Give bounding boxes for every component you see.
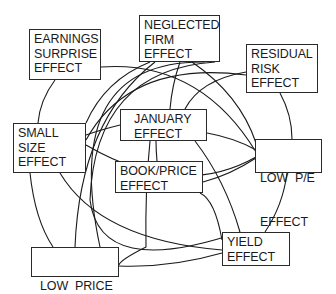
node-january-effect: JANUARY EFFECT bbox=[120, 109, 207, 141]
node-small-size-effect: SMALL SIZE EFFECT bbox=[13, 123, 86, 173]
node-neglected-firm-effect: NEGLECTED FIRM EFFECT bbox=[139, 15, 220, 62]
link-bookprice-yield bbox=[200, 193, 222, 240]
link-earnings-small bbox=[38, 80, 55, 123]
link-january-lowprice bbox=[119, 141, 150, 265]
node-yield-effect: YIELD EFFECT bbox=[222, 232, 290, 266]
link-small-lowprice bbox=[30, 173, 53, 247]
node-earnings-surprise-effect: EARNINGS SURPRISE EFFECT bbox=[29, 29, 101, 80]
node-residual-risk-effect: RESIDUAL RISK EFFECT bbox=[246, 44, 318, 93]
effects-diagram: EARNINGS SURPRISE EFFECT NEGLECTED FIRM … bbox=[0, 0, 336, 294]
node-low-pe-effect: LOW P/E EFFECT bbox=[255, 139, 322, 173]
link-neglected-lowprice bbox=[75, 62, 155, 247]
link-residual-lowpe bbox=[280, 93, 292, 139]
node-book-price-effect: BOOK/PRICE EFFECT bbox=[115, 161, 203, 193]
link-bookprice-january bbox=[156, 141, 157, 161]
node-low-price-effect: LOW PRICE EFFECT bbox=[31, 247, 119, 277]
link-lowprice-yield bbox=[119, 253, 222, 266]
